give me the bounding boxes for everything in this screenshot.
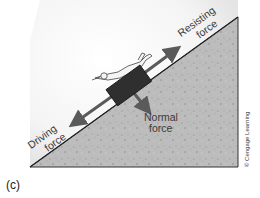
panel-label: (c) (6, 178, 20, 192)
copyright-credit: © Cengage Learning (244, 112, 250, 167)
slope-diagram: Resisting force Driving force Normal for… (0, 0, 260, 198)
svg-text:force: force (149, 122, 173, 134)
